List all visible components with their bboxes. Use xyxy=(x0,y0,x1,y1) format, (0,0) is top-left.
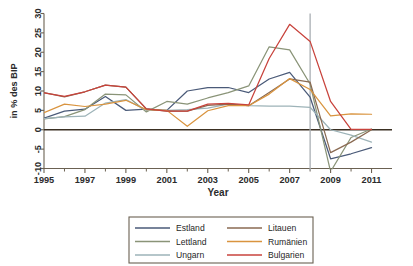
x-tick-label: 2003 xyxy=(198,175,218,185)
line-chart: in % des BIP -10-5051015202530 199519971… xyxy=(0,0,413,266)
y-tick-label: -10 xyxy=(33,162,43,175)
y-tick-label: 10 xyxy=(33,86,43,96)
y-tick-label: -5 xyxy=(33,145,43,153)
legend-label: Litauen xyxy=(268,223,296,233)
x-tick-label: 2009 xyxy=(320,175,340,185)
y-tick-label: 0 xyxy=(33,127,43,132)
series-lines xyxy=(44,24,372,171)
x-axis-title: Year xyxy=(207,187,228,198)
chart-figure: in % des BIP -10-5051015202530 199519971… xyxy=(0,0,413,266)
y-tick-label: 20 xyxy=(33,47,43,57)
series-line-estland xyxy=(44,72,372,158)
y-tick-label: 25 xyxy=(33,28,43,38)
chart-legend: EstlandLitauenLettlandRumänienUngarnBulg… xyxy=(129,217,313,263)
x-tick-label: 1999 xyxy=(116,175,136,185)
series-line-lettland xyxy=(44,47,372,172)
y-axis: -10-5051015202530 xyxy=(33,8,44,175)
x-tick-label: 2007 xyxy=(279,175,299,185)
y-tick-label: 15 xyxy=(33,67,43,77)
x-tick-label: 1997 xyxy=(75,175,95,185)
legend-label: Rumänien xyxy=(268,237,307,247)
x-tick-label: 2001 xyxy=(157,175,177,185)
y-tick-label: 30 xyxy=(33,8,43,18)
series-line-rumnien xyxy=(44,79,372,127)
x-tick-label: 2005 xyxy=(238,175,258,185)
x-tick-label: 1995 xyxy=(34,175,54,185)
x-axis: 199519971999200120032005200720092011 xyxy=(34,169,392,185)
legend-label: Ungarn xyxy=(176,250,204,260)
legend-label: Bulgarien xyxy=(268,250,305,260)
series-line-bulgarien xyxy=(44,24,372,129)
y-tick-label: 5 xyxy=(33,108,43,113)
x-tick-label: 2011 xyxy=(362,175,382,185)
y-axis-title: in % des BIP xyxy=(9,63,19,118)
x-axis-title-group: Year xyxy=(207,187,228,198)
y-axis-title-group: in % des BIP xyxy=(9,63,19,118)
legend-label: Estland xyxy=(176,223,205,233)
series-line-litauen xyxy=(44,79,372,153)
legend-label: Lettland xyxy=(176,237,207,247)
